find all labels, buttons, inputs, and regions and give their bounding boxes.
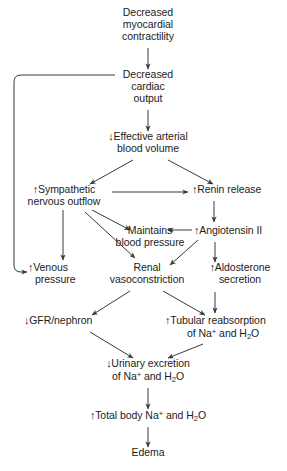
flowchart-diagram: Decreased myocardial contractility Decre… bbox=[0, 0, 287, 471]
edge-volume-to-renin bbox=[168, 160, 213, 184]
node-myocardial-contractility: Decreased myocardial contractility bbox=[104, 6, 192, 43]
edge-gfr-to-urinary bbox=[90, 332, 133, 358]
node-line: Edema bbox=[108, 446, 188, 458]
node-line: contractility bbox=[104, 30, 192, 42]
node-line: pressure bbox=[28, 273, 100, 285]
node-effective-arterial-blood-volume: ↓Effective arterial blood volume bbox=[88, 130, 208, 154]
node-line: of Na+ and H2O bbox=[88, 369, 208, 386]
node-line: ↓Urinary excretion bbox=[88, 357, 208, 369]
edge-renal-to-tubular bbox=[163, 291, 205, 315]
node-total-body-sodium-water: ↑Total body Na+ and H2O bbox=[68, 408, 228, 425]
node-line: cardiac bbox=[104, 80, 192, 92]
node-line: Decreased bbox=[104, 68, 192, 80]
node-line: nervous outflow bbox=[22, 195, 106, 207]
node-line: ↑Venous bbox=[28, 261, 100, 273]
node-renal-vasoconstriction: Renal vasoconstriction bbox=[101, 261, 193, 285]
node-line: ↑Total body Na+ and H2O bbox=[68, 408, 228, 425]
node-line: of Na+ and H2O bbox=[165, 326, 287, 343]
node-cardiac-output: Decreased cardiac output bbox=[104, 68, 192, 105]
node-line: ↑Tubular reabsorption bbox=[165, 314, 287, 326]
node-angiotensin-ii: ↑Angiotensin II bbox=[194, 224, 286, 236]
node-line: ↓GFR/nephron bbox=[24, 314, 114, 326]
node-line: Renal bbox=[101, 261, 193, 273]
node-line: vasoconstriction bbox=[101, 273, 193, 285]
node-line: output bbox=[104, 92, 192, 104]
node-line: ↑Renin release bbox=[192, 183, 284, 195]
node-line: secretion bbox=[196, 273, 284, 285]
node-renin-release: ↑Renin release bbox=[192, 183, 284, 195]
node-edema: Edema bbox=[108, 446, 188, 458]
node-line: blood pressure bbox=[110, 236, 190, 248]
node-venous-pressure: ↑Venous pressure bbox=[28, 261, 100, 285]
node-line: Maintains bbox=[110, 224, 190, 236]
node-maintains-blood-pressure: Maintains blood pressure bbox=[110, 224, 190, 248]
edge-volume-to-sympathetic bbox=[90, 160, 133, 184]
node-gfr-nephron: ↓GFR/nephron bbox=[24, 314, 114, 326]
node-sympathetic-nervous-outflow: ↑Sympathetic nervous outflow bbox=[22, 183, 106, 207]
node-line: ↓Effective arterial bbox=[88, 130, 208, 142]
node-line: ↑Aldosterone bbox=[196, 261, 284, 273]
edge-tubular-to-urinary bbox=[168, 344, 203, 358]
node-line: myocardial bbox=[104, 18, 192, 30]
node-line: ↑Angiotensin II bbox=[194, 224, 286, 236]
edge-output-to-venous-feedback bbox=[14, 75, 115, 272]
node-line: ↑Sympathetic bbox=[22, 183, 106, 195]
node-urinary-excretion: ↓Urinary excretion of Na+ and H2O bbox=[88, 357, 208, 386]
edge-renal-to-gfr bbox=[92, 291, 130, 315]
node-aldosterone-secretion: ↑Aldosterone secretion bbox=[196, 261, 284, 285]
node-line: blood volume bbox=[88, 142, 208, 154]
node-line: Decreased bbox=[104, 6, 192, 18]
node-tubular-reabsorption: ↑Tubular reabsorption of Na+ and H2O bbox=[165, 314, 287, 343]
